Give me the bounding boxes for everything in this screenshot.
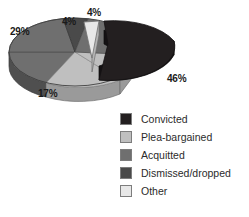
legend-item-convicted: Convicted	[120, 110, 249, 128]
legend-swatch-acquitted	[120, 149, 132, 161]
slice-data-label-convicted: 46%	[167, 74, 186, 84]
legend-label-other: Other	[141, 186, 167, 197]
pie-chart-figure: 29% 4% 4% 46% 17% Convicted Plea-bargain…	[0, 0, 249, 217]
slice-data-label-dismissed-dropped: 4%	[62, 17, 76, 27]
legend-label-dismissed-dropped: Dismissed/dropped	[141, 168, 231, 179]
legend-label-convicted: Convicted	[141, 114, 188, 125]
legend-item-acquitted: Acquitted	[120, 146, 249, 164]
legend-label-acquitted: Acquitted	[141, 150, 185, 161]
legend-item-dismissed-dropped: Dismissed/dropped	[120, 164, 249, 182]
legend-item-other: Other	[120, 182, 249, 200]
legend-swatch-other	[120, 185, 132, 197]
slice-data-label-acquitted: 29%	[10, 27, 29, 37]
legend-swatch-dismissed-dropped	[120, 167, 132, 179]
pie-plot-area: 29% 4% 4% 46% 17%	[0, 0, 210, 108]
legend-item-plea-bargained: Plea-bargained	[120, 128, 249, 146]
legend-label-plea-bargained: Plea-bargained	[141, 132, 212, 143]
legend-swatch-convicted	[120, 113, 132, 125]
slice-top-convicted	[99, 21, 175, 81]
legend-swatch-plea-bargained	[120, 131, 132, 143]
slice-data-label-other: 4%	[87, 8, 101, 18]
exploded-slice-convicted	[99, 21, 175, 81]
chart-legend: Convicted Plea-bargained Acquitted Dismi…	[120, 110, 249, 200]
pie-graphic	[0, 0, 210, 108]
slice-data-label-plea-bargained: 17%	[38, 89, 57, 99]
